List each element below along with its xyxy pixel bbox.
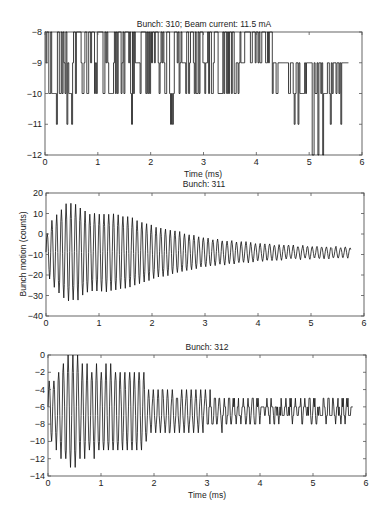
panel-title: Bunch: 310; Beam current: 11.5 mA [137,19,272,29]
y-tick-label: −10 [27,89,42,99]
y-tick-label: −20 [28,270,43,280]
panel-bunch-312: Bunch: 312 0−2−4−6−8−10−12−14 0123456 Ti… [30,342,369,500]
y-tick-label: −2 [35,367,45,377]
x-tick-label: 0 [42,157,47,167]
y-tick-label: −12 [30,454,45,464]
x-tick-label: 6 [361,318,366,328]
y-tick-label: −10 [28,250,43,260]
x-tick-label: 2 [151,478,156,488]
y-tick-label: −14 [30,471,45,481]
x-tick-label: 1 [95,157,100,167]
x-tick-label: 3 [204,478,209,488]
x-tick-label: 5 [310,478,315,488]
x-tick-label: 2 [149,318,154,328]
y-tick-label: −40 [28,311,43,321]
x-tick-label: 6 [359,157,364,167]
x-tick-label: 1 [98,478,103,488]
y-tick-label: −11 [27,119,42,129]
y-tick-label: −8 [35,419,45,429]
figure: Bunch: 310; Beam current: 11.5 mA −8−9−1… [0,0,385,521]
y-tick-label: 0 [38,229,43,239]
x-tick-label: 1 [96,318,101,328]
x-tick-label: 5 [308,318,313,328]
y-tick-label: −4 [35,385,45,395]
x-axis-label: Time (ms) [184,169,222,179]
signal-trace [48,355,353,467]
panel-title: Bunch: 311 [183,179,226,189]
y-tick-label: −6 [35,402,45,412]
x-tick-label: 2 [148,157,153,167]
y-tick-label: −30 [28,291,43,301]
y-tick-label: −9 [32,58,42,68]
x-tick-label: 5 [307,157,312,167]
y-tick-label: −12 [27,150,42,160]
x-tick-label: 0 [45,478,50,488]
x-tick-label: 3 [202,318,207,328]
y-tick-label: −8 [32,27,42,37]
signal-trace [45,32,348,155]
x-tick-label: 4 [255,318,260,328]
x-tick-label: 0 [43,318,48,328]
x-axis-label: Time (ms) [188,490,226,500]
x-tick-label: 4 [254,157,259,167]
y-tick-label: 20 [33,188,43,198]
x-tick-label: 4 [257,478,262,488]
y-tick-label: −10 [30,436,45,446]
y-tick-label: 10 [33,209,43,219]
x-tick-label: 6 [363,478,368,488]
y-axis-label: Bunch motion (counts) [18,211,28,296]
signal-trace [46,203,351,301]
panel-bunch-311: Bunch: 311 20100−10−20−30−40 0123456 Bun… [18,179,367,328]
panel-title: Bunch: 312 [185,342,228,352]
panel-bunch-310: Bunch: 310; Beam current: 11.5 mA −8−9−1… [27,19,365,179]
x-tick-label: 3 [201,157,206,167]
y-tick-label: 0 [40,350,45,360]
